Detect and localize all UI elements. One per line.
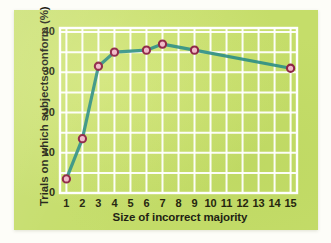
chart-card: Trials on which subjects conform (%) Siz… <box>14 10 318 230</box>
grid-layer <box>60 28 297 193</box>
y-tick-label: 40 <box>33 25 55 37</box>
y-tick-label: 10 <box>33 146 55 158</box>
y-tick-label: 20 <box>33 106 55 118</box>
chart-plot-area: Trials on which subjects conform (%) Siz… <box>14 10 318 230</box>
y-tick-label: 0 <box>33 186 55 198</box>
x-tick-label: 15 <box>282 197 300 209</box>
y-tick-label: 30 <box>33 65 55 77</box>
